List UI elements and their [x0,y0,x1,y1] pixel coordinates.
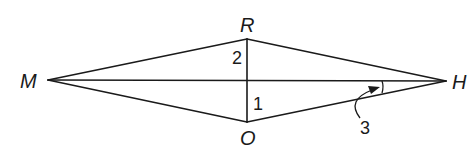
vertex-label-M: M [20,70,37,92]
angle-label-1: 1 [253,94,263,114]
arrowhead-icon [368,86,380,94]
angle-3-pointer-arrow [355,90,372,118]
angle-label-2: 2 [232,48,242,68]
vertex-label-H: H [452,71,467,93]
angle-3-arc [382,81,383,93]
kite-diagram: R M H O 2 1 3 [0,0,476,148]
side-RH [247,39,446,81]
vertex-label-R: R [240,14,254,36]
vertex-label-O: O [240,127,256,148]
side-HO [247,81,446,122]
angle-label-3: 3 [360,118,370,138]
side-OM [48,80,247,122]
side-MR [48,39,247,80]
